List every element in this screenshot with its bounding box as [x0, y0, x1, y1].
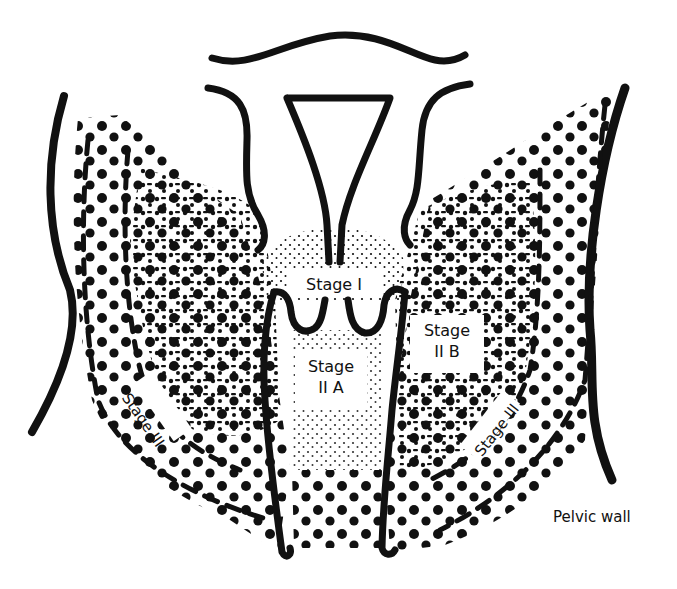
left-pelvic-wall — [32, 96, 73, 432]
diagram-canvas: Stage I Stage II A Stage II B Stage III … — [0, 0, 677, 589]
uterus-fundus-outline — [212, 35, 465, 61]
stage-2b-label-line1: Stage — [424, 321, 470, 340]
pelvic-wall-label: Pelvic wall — [553, 508, 631, 526]
stage-2a-label-line2: II A — [318, 378, 344, 397]
stage-2b-label-line2: II B — [434, 342, 460, 361]
staging-diagram: Stage I Stage II A Stage II B Stage III … — [0, 0, 677, 589]
stage-2a-label-line1: Stage — [308, 357, 354, 376]
stage-1-label: Stage I — [306, 275, 362, 294]
